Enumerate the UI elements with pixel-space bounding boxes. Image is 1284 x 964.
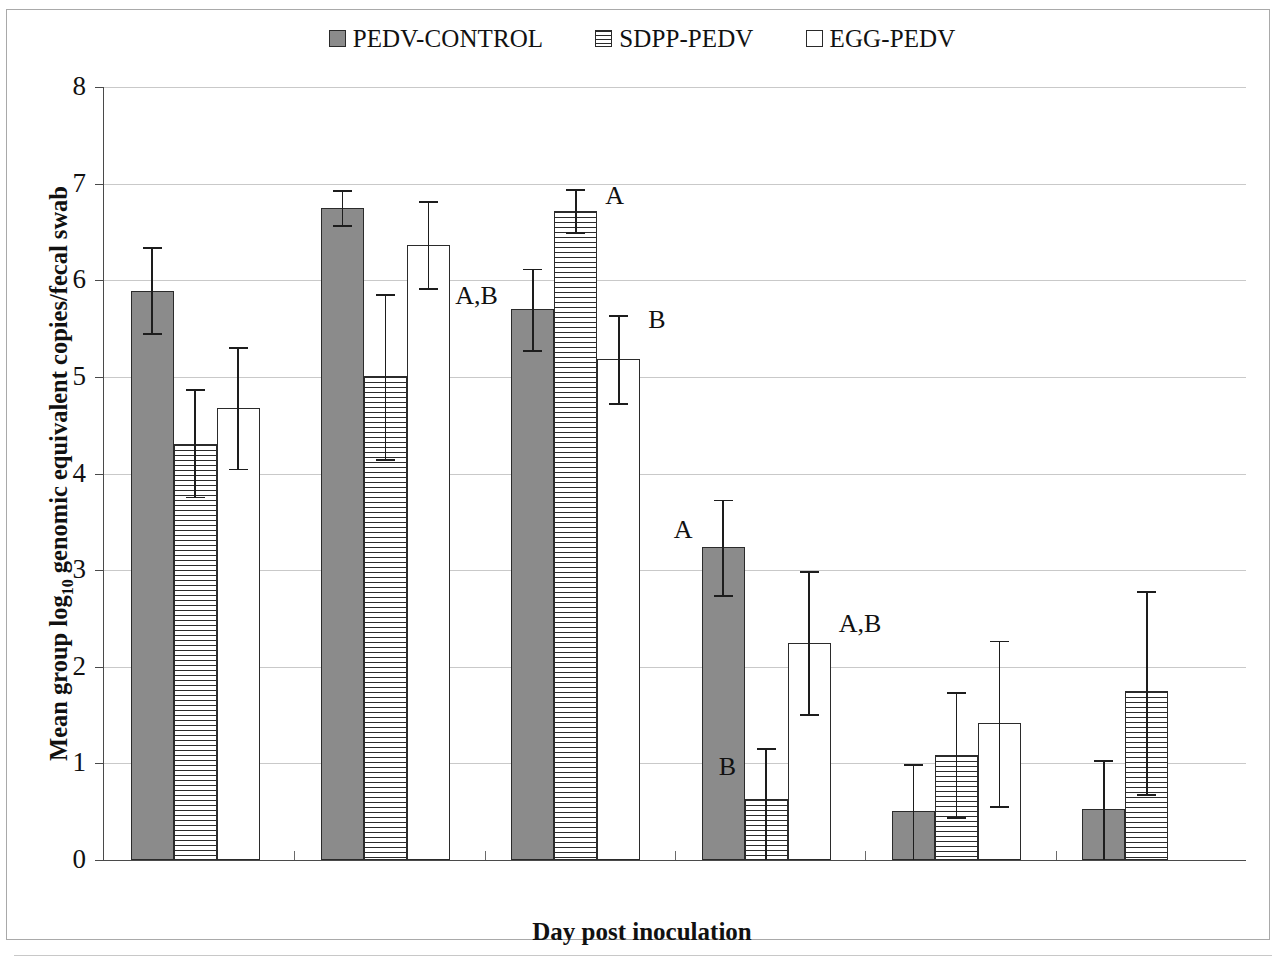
error-bar-stem: [808, 571, 810, 714]
error-bar-stem: [913, 764, 915, 860]
error-bar-stem: [1103, 760, 1105, 860]
x-axis-category-separator: [675, 851, 676, 860]
error-bar-cap-upper: [143, 247, 162, 249]
error-bar-cap-upper: [376, 294, 395, 296]
y-axis-tick-mark: [95, 184, 104, 185]
error-bar-cap-upper: [333, 190, 352, 192]
y-axis-tick-label: 5: [52, 363, 86, 390]
gridline: [104, 184, 1246, 185]
y-axis-tick-label: 2: [52, 653, 86, 680]
bar-sdpp-pedv-day-7: [554, 211, 597, 860]
gridline: [104, 474, 1246, 475]
error-bar-cap-lower: [990, 806, 1009, 808]
error-bar-cap-lower: [143, 333, 162, 335]
error-bar-stem: [194, 389, 196, 496]
error-bar-stem: [765, 748, 767, 860]
bar-pedv-control-day-5: [321, 208, 364, 860]
legend-label-egg-pedv: EGG-PEDV: [830, 26, 956, 51]
error-bar-stem: [151, 247, 153, 333]
error-bar-stem: [385, 294, 387, 459]
significance-label: A,B: [455, 283, 498, 309]
significance-label: A,B: [839, 611, 882, 637]
gridline: [104, 667, 1246, 668]
x-axis-title: Day post inoculation: [0, 918, 1284, 945]
y-axis-tick-label: 8: [52, 73, 86, 100]
bar-pedv-control-day-3: [131, 291, 174, 860]
error-bar-cap-upper: [947, 692, 966, 694]
error-bar-stem: [956, 692, 958, 818]
x-axis-category-separator: [865, 851, 866, 860]
y-axis-tick-label: 7: [52, 170, 86, 197]
error-bar-cap-lower: [333, 225, 352, 227]
error-bar-stem: [575, 189, 577, 232]
empty-white-square-icon: [806, 30, 823, 47]
error-bar-cap-upper: [186, 389, 205, 391]
error-bar-stem: [722, 500, 724, 596]
error-bar-stem: [428, 201, 430, 288]
error-bar-cap-lower: [609, 403, 628, 405]
error-bar-stem: [342, 190, 344, 225]
y-axis-tick-label: 4: [52, 460, 86, 487]
error-bar-cap-upper: [229, 347, 248, 349]
error-bar-cap-upper: [990, 641, 1009, 643]
gridline: [104, 280, 1246, 281]
significance-label: A: [605, 183, 624, 209]
error-bar-cap-upper: [609, 315, 628, 317]
bar-pedv-control-day-7: [511, 309, 554, 860]
gridline: [104, 763, 1246, 764]
error-bar-cap-lower: [229, 469, 248, 471]
error-bar-stem: [999, 641, 1001, 806]
gridline: [104, 377, 1246, 378]
y-axis-tick-label: 3: [52, 556, 86, 583]
error-bar-cap-upper: [1094, 760, 1113, 762]
bar-egg-pedv-day-3: [217, 408, 260, 860]
gridline: [104, 87, 1246, 88]
error-bar-cap-lower: [947, 817, 966, 819]
x-axis-category-separator: [1056, 851, 1057, 860]
y-axis-tick-mark: [95, 667, 104, 668]
error-bar-cap-upper: [523, 269, 542, 271]
gridline: [104, 570, 1246, 571]
page-bottom-rule: [14, 955, 1272, 956]
error-bar-cap-lower: [376, 459, 395, 461]
significance-label: B: [648, 307, 665, 333]
y-axis-tick-mark: [95, 474, 104, 475]
error-bar-stem: [618, 315, 620, 403]
error-bar-cap-lower: [419, 288, 438, 290]
error-bar-cap-upper: [1137, 591, 1156, 593]
error-bar-cap-upper: [419, 201, 438, 203]
y-axis-tick-label: 0: [52, 846, 86, 873]
legend-item-egg-pedv: EGG-PEDV: [806, 26, 956, 51]
error-bar-cap-lower: [523, 350, 542, 352]
y-axis-tick-mark: [95, 860, 104, 861]
y-axis-tick-mark: [95, 280, 104, 281]
chart-legend: PEDV-CONTROL SDPP-PEDV EGG-PEDV: [0, 26, 1284, 51]
bar-egg-pedv-day-7: [597, 359, 640, 860]
y-axis-tick-mark: [95, 377, 104, 378]
error-bar-stem: [1146, 591, 1148, 794]
chart-plot-area: Mean group log10 genomic equivalent copi…: [103, 87, 1246, 861]
error-bar-cap-lower: [714, 595, 733, 597]
legend-label-pedv-control: PEDV-CONTROL: [353, 26, 544, 51]
error-bar-cap-lower: [566, 232, 585, 234]
error-bar-cap-upper: [904, 764, 923, 766]
error-bar-cap-lower: [1137, 794, 1156, 796]
error-bar-cap-lower: [186, 497, 205, 499]
y-axis-tick-mark: [95, 87, 104, 88]
error-bar-cap-upper: [800, 571, 819, 573]
y-axis-tick-label: 1: [52, 749, 86, 776]
x-axis-category-separator: [485, 851, 486, 860]
error-bar-cap-lower: [800, 714, 819, 716]
legend-item-pedv-control: PEDV-CONTROL: [329, 26, 544, 51]
error-bar-cap-upper: [566, 189, 585, 191]
error-bar-stem: [237, 347, 239, 469]
solid-gray-square-icon: [329, 30, 346, 47]
bar-sdpp-pedv-day-3: [174, 444, 217, 860]
legend-label-sdpp-pedv: SDPP-PEDV: [619, 26, 753, 51]
y-axis-tick-mark: [95, 763, 104, 764]
y-axis-tick-label: 6: [52, 266, 86, 293]
error-bar-cap-upper: [714, 500, 733, 502]
horizontal-striped-square-icon: [595, 30, 612, 47]
bar-egg-pedv-day-5: [407, 245, 450, 861]
significance-label: A: [674, 517, 693, 543]
